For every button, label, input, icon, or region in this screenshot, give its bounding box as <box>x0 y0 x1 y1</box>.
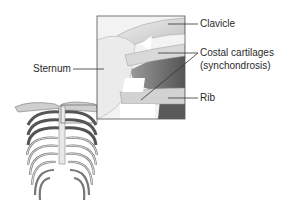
rib-cage-illustration <box>15 102 100 200</box>
label-sternum: Sternum <box>33 63 71 74</box>
label-synchondrosis: (synchondrosis) <box>200 60 271 71</box>
label-costal-cartilages: Costal cartilages <box>200 47 274 58</box>
diagram-canvas <box>0 0 289 220</box>
label-clavicle: Clavicle <box>200 18 235 29</box>
inset-magnified-view <box>97 16 185 119</box>
label-rib: Rib <box>200 92 215 103</box>
